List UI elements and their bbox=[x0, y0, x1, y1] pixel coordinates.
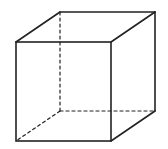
visible-edges bbox=[16, 12, 155, 141]
hidden-edges bbox=[16, 12, 155, 141]
front-face bbox=[16, 42, 111, 141]
edge-top-left-depth bbox=[16, 12, 60, 42]
edge-top-right-depth bbox=[111, 12, 155, 42]
edge-bottom-right-depth bbox=[111, 111, 155, 141]
hidden-edge-bottom-left-depth bbox=[16, 111, 60, 141]
cube-diagram bbox=[0, 0, 168, 149]
